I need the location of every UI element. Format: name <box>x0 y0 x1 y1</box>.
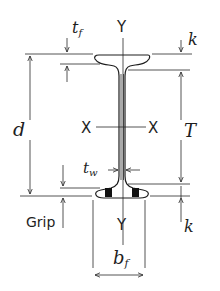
grip-label: Grip <box>26 214 55 230</box>
bottom-k-label: k <box>184 217 194 236</box>
grip-dimension: Grip <box>26 165 63 230</box>
depth-label: d <box>13 118 25 140</box>
web-height-label: T <box>184 120 198 141</box>
right-bottom-block <box>132 188 139 197</box>
top-k-dimension: k <box>181 30 198 84</box>
depth-dimension: d <box>13 56 30 194</box>
beam-section-diagram: Y Y X X <box>0 0 220 291</box>
y-axis-label-top: Y <box>116 18 127 36</box>
bottom-k-dimension: k <box>181 186 194 236</box>
x-axis-label-left: X <box>81 119 91 137</box>
flange-width-dimension: bf <box>95 247 143 275</box>
web-thickness-label: tw <box>83 159 98 178</box>
flange-width-label: bf <box>113 247 131 270</box>
extension-lines <box>20 54 192 268</box>
y-axis-label-bottom: Y <box>116 216 127 234</box>
web-height-dimension: T <box>181 84 198 182</box>
web-thickness-dimension: tw <box>83 159 140 178</box>
top-k-label: k <box>188 30 198 49</box>
beam-section <box>95 55 150 198</box>
x-axis-label-right: X <box>148 119 158 137</box>
x-axis: X X <box>81 119 158 137</box>
flange-thickness-label: tf <box>72 18 84 38</box>
left-bottom-block <box>105 188 112 197</box>
flange-thickness-dimension: tf <box>67 18 84 82</box>
